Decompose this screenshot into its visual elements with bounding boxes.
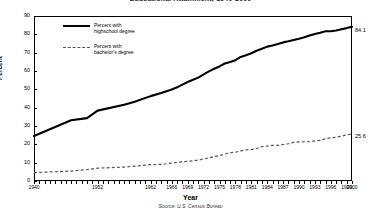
legend-label-bachelors: Percent with bachelor's degree (94, 43, 134, 55)
legend-label-bachelors-line2: bachelor's degree (94, 49, 134, 55)
solid-line-icon (63, 22, 90, 30)
legend-item-bachelors: Percent with bachelor's degree (63, 43, 135, 55)
legend-label-highschool: Percent with highschool degree (94, 22, 135, 34)
legend: Percent with highschool degree Percent w… (63, 22, 135, 64)
end-value-bachelors: 25.6 (355, 133, 366, 139)
series-line-bachelors (34, 134, 352, 173)
x-axis-title: Year (0, 194, 381, 201)
source-note: Source: U.S. Census Bureau (0, 203, 381, 209)
data-series-layer (0, 0, 381, 216)
chart-container: Educational Attainment, 1940-2000 Percen… (0, 0, 381, 216)
legend-item-highschool: Percent with highschool degree (63, 22, 135, 34)
legend-label-highschool-line2: highschool degree (94, 28, 135, 34)
dashed-line-icon (63, 43, 90, 51)
end-value-highschool: 84.1 (355, 27, 366, 33)
